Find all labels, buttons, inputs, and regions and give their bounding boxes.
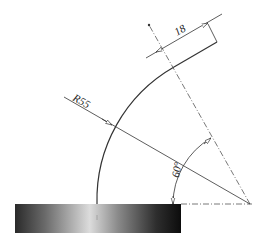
arrow-18-left [156, 49, 162, 52]
angle-label: 60° [169, 161, 184, 179]
angle-arrow-top [204, 138, 211, 144]
radius-leader [64, 97, 250, 204]
radius-label-text: R55 [70, 91, 93, 111]
straight-extension [174, 42, 217, 67]
technical-drawing: 18 R55 60° [0, 0, 269, 250]
base-block [15, 204, 181, 233]
main-arc [97, 67, 174, 204]
radius-arrow [102, 119, 112, 125]
extension-line-18 [208, 24, 217, 42]
centerline-end-dot [148, 24, 150, 26]
